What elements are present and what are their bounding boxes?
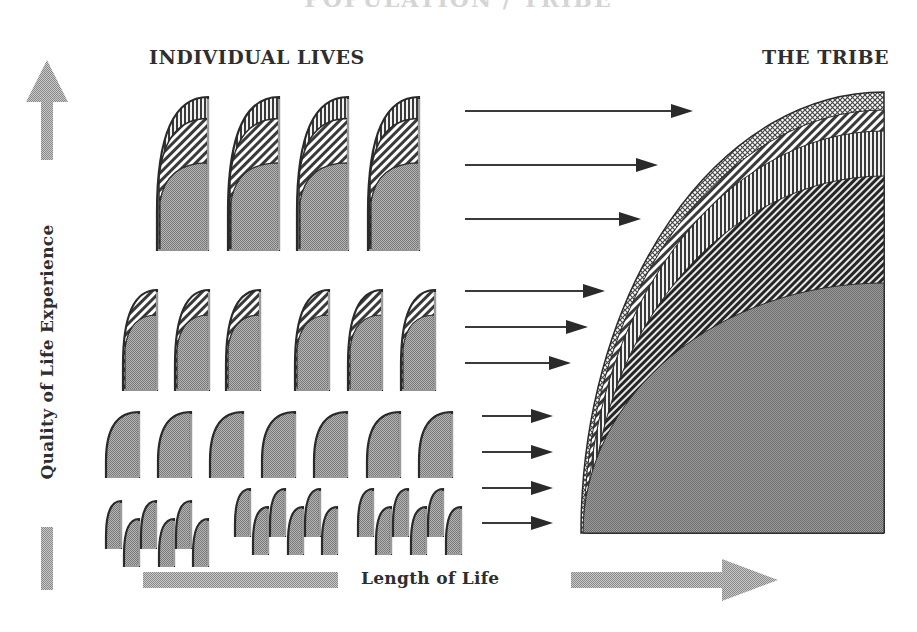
- x-axis-label: Length of Life: [361, 568, 499, 588]
- life-shape-icon: [419, 412, 452, 477]
- flow-arrow-icon: [465, 104, 693, 118]
- lives-row-3: [106, 412, 452, 477]
- life-shape-icon: [314, 412, 347, 477]
- life-shape-icon: [159, 519, 174, 566]
- right-arrow-shaft: [143, 572, 338, 588]
- up-arrow-shaft: [41, 527, 53, 590]
- life-shape-icon: [322, 507, 337, 554]
- flow-arrow-icon: [482, 445, 553, 459]
- life-shape-icon: [411, 507, 426, 554]
- life-shape-icon: [295, 290, 329, 390]
- flow-arrow-icon: [465, 158, 658, 172]
- life-shape-icon: [253, 507, 268, 554]
- y-axis-label: Quality of Life Experience: [37, 224, 57, 479]
- flow-arrow-icon: [482, 481, 553, 495]
- flow-arrow-icon: [465, 320, 588, 334]
- flow-arrow-icon: [465, 284, 605, 298]
- life-shape-icon: [158, 412, 191, 477]
- life-shape-icon: [428, 489, 443, 536]
- tribe-shape: [581, 92, 884, 533]
- life-shape-icon: [262, 412, 295, 477]
- life-shape-icon: [288, 507, 303, 554]
- lives-row-4: [106, 489, 461, 566]
- up-arrow-head-icon: [26, 60, 68, 102]
- life-shape-icon: [193, 519, 208, 566]
- flow-arrow-icon: [465, 356, 571, 370]
- lives-row-1: [157, 97, 419, 250]
- life-shape-icon: [446, 507, 461, 554]
- individual-lives-heading: INDIVIDUAL LIVES: [149, 46, 365, 68]
- life-shape-icon: [123, 290, 157, 390]
- flow-arrow-icon: [482, 409, 553, 423]
- life-shape-icon: [175, 290, 209, 390]
- lives-row-2: [123, 290, 435, 390]
- life-shape-icon: [348, 290, 382, 390]
- tribe-heading: THE TRIBE: [762, 46, 889, 68]
- life-shape-icon: [176, 501, 191, 548]
- life-shape-icon: [376, 507, 391, 554]
- life-shape-icon: [106, 412, 139, 477]
- life-shape-icon: [305, 489, 320, 536]
- right-arrow-head-icon: [722, 559, 778, 601]
- right-arrow-shaft: [571, 572, 722, 588]
- life-shape-icon: [367, 412, 400, 477]
- life-shape-icon: [226, 290, 260, 390]
- life-shape-icon: [228, 97, 279, 250]
- life-shape-icon: [235, 489, 250, 536]
- flow-arrow-icon: [482, 516, 553, 530]
- diagram-canvas: [0, 0, 917, 632]
- life-shape-icon: [297, 97, 348, 250]
- diagram-title: POPULATION / TRIBE: [0, 0, 917, 12]
- flow-arrow-icon: [465, 212, 641, 226]
- life-shape-icon: [106, 501, 121, 548]
- life-shape-icon: [270, 489, 285, 536]
- life-shape-icon: [358, 489, 373, 536]
- life-shape-icon: [368, 97, 419, 250]
- life-shape-icon: [210, 412, 243, 477]
- life-shape-icon: [401, 290, 435, 390]
- life-shape-icon: [157, 97, 208, 250]
- life-shape-icon: [393, 489, 408, 536]
- up-arrow-shaft: [41, 102, 53, 160]
- individual-lives-group: [106, 97, 461, 566]
- life-shape-icon: [141, 501, 156, 548]
- life-shape-icon: [124, 519, 139, 566]
